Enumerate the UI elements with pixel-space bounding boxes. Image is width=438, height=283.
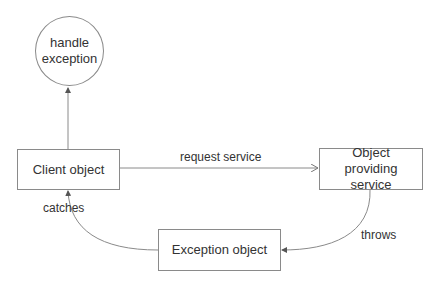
node-handle-exception-label: handle exception — [42, 35, 98, 67]
edge-catches — [68, 191, 158, 250]
node-handle-exception: handle exception — [35, 16, 104, 86]
node-exception-object-label: Exception object — [172, 242, 267, 258]
edge-label-throws: throws — [361, 228, 396, 242]
exception-flow-diagram: handle exception Client object Object pr… — [0, 0, 438, 283]
node-client-object-label: Client object — [33, 162, 105, 178]
node-object-providing-service-label: Object providing service — [326, 145, 416, 193]
edge-label-request-service: request service — [180, 150, 261, 164]
edge-throws — [282, 189, 370, 250]
node-client-object: Client object — [17, 149, 120, 190]
node-object-providing-service: Object providing service — [319, 148, 423, 190]
edge-label-catches: catches — [43, 201, 84, 215]
node-exception-object: Exception object — [158, 229, 281, 271]
